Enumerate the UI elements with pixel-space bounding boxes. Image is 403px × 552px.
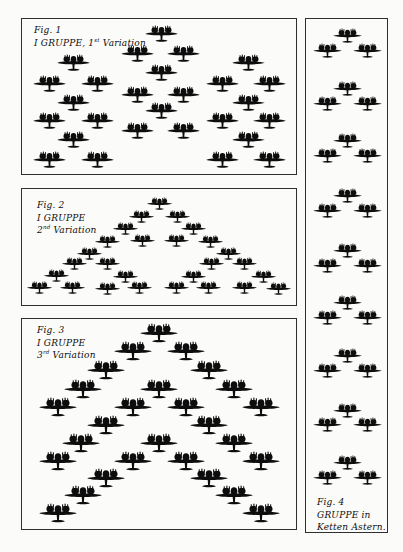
aircraft-icon: [333, 188, 362, 203]
aircraft-icon: [81, 151, 114, 168]
aircraft-icon: [62, 433, 100, 453]
aircraft-icon: [167, 86, 200, 103]
fig2-figure-subtitle: 2nd Variation: [37, 224, 97, 237]
aircraft-icon: [242, 451, 280, 471]
fig2-figure-label: Fig. 2: [37, 199, 97, 212]
aircraft-icon: [333, 28, 362, 43]
aircraft-icon: [60, 281, 85, 294]
aircraft-icon: [313, 203, 342, 218]
aircraft-icon: [190, 360, 228, 380]
aircraft-icon: [313, 363, 342, 378]
fig4-figure-subtitle: Ketten Astern.: [317, 521, 386, 534]
aircraft-icon: [145, 64, 178, 81]
aircraft-icon: [333, 133, 362, 148]
aircraft-icon: [242, 397, 280, 417]
aircraft-icon: [232, 131, 265, 148]
aircraft-icon: [33, 75, 66, 92]
aircraft-icon: [206, 75, 239, 92]
aircraft-icon: [145, 25, 178, 42]
caption-text: I GRUPPE: [37, 338, 85, 348]
caption-text: GRUPPE in: [317, 510, 371, 520]
aircraft-icon: [39, 451, 77, 471]
aircraft-icon: [206, 112, 239, 129]
aircraft-icon: [232, 54, 265, 71]
aircraft-icon: [81, 112, 114, 129]
aircraft-icon: [313, 310, 342, 325]
aircraft-icon: [206, 151, 239, 168]
aircraft-icon: [266, 282, 291, 295]
aircraft-icon: [353, 470, 382, 485]
aircraft-icon: [190, 415, 228, 435]
aircraft-icon: [353, 258, 382, 273]
aircraft-icon: [333, 403, 362, 418]
aircraft-icon: [333, 295, 362, 310]
aircraft-icon: [253, 75, 286, 92]
fig4-panel: Fig. 4 GRUPPE in Ketten Astern.: [305, 18, 388, 533]
aircraft-icon: [167, 45, 200, 62]
aircraft-icon: [87, 415, 125, 435]
aircraft-icon: [140, 433, 178, 453]
aircraft-icon: [353, 203, 382, 218]
aircraft-icon: [140, 323, 178, 343]
aircraft-icon: [253, 151, 286, 168]
aircraft-icon: [199, 257, 224, 270]
aircraft-icon: [121, 45, 154, 62]
fig3-panel: Fig. 3 I GRUPPE 3rd Variation: [21, 318, 297, 530]
aircraft-icon: [353, 417, 382, 432]
aircraft-icon: [232, 94, 265, 111]
caption-text: Variation: [50, 225, 96, 235]
aircraft-icon: [167, 341, 205, 361]
aircraft-icon: [313, 96, 342, 111]
aircraft-icon: [333, 348, 362, 363]
aircraft-icon: [33, 112, 66, 129]
aircraft-icon: [57, 94, 90, 111]
aircraft-icon: [121, 86, 154, 103]
aircraft-icon: [164, 281, 189, 294]
aircraft-icon: [353, 96, 382, 111]
aircraft-icon: [145, 102, 178, 119]
aircraft-icon: [95, 282, 120, 295]
aircraft-icon: [57, 131, 90, 148]
caption-text: Variation: [50, 350, 96, 360]
aircraft-icon: [164, 234, 189, 247]
aircraft-icon: [147, 197, 172, 210]
fig4-figure-label: Fig. 4: [317, 496, 386, 509]
fig2-panel: Fig. 2 I GRUPPE 2nd Variation: [21, 188, 297, 306]
aircraft-icon: [167, 397, 205, 417]
aircraft-icon: [242, 503, 280, 523]
aircraft-icon: [64, 485, 102, 505]
aircraft-icon: [114, 397, 152, 417]
aircraft-icon: [313, 470, 342, 485]
aircraft-icon: [215, 485, 253, 505]
aircraft-icon: [127, 281, 152, 294]
aircraft-icon: [313, 417, 342, 432]
aircraft-icon: [333, 243, 362, 258]
aircraft-icon: [232, 281, 257, 294]
aircraft-icon: [353, 363, 382, 378]
fig2-caption: Fig. 2 I GRUPPE 2nd Variation: [37, 199, 97, 237]
aircraft-icon: [313, 43, 342, 58]
book-page: Fig. 1 I GRUPPE, 1st Variation: [0, 0, 403, 552]
fig4-figure-title: GRUPPE in: [317, 509, 386, 522]
aircraft-icon: [121, 122, 154, 139]
aircraft-icon: [353, 43, 382, 58]
aircraft-icon: [95, 257, 120, 270]
caption-text: I GRUPPE, 1: [34, 38, 94, 48]
fig2-figure-title: I GRUPPE: [37, 212, 97, 225]
aircraft-icon: [130, 234, 155, 247]
aircraft-icon: [253, 112, 286, 129]
aircraft-icon: [27, 281, 52, 294]
aircraft-icon: [353, 310, 382, 325]
aircraft-icon: [333, 81, 362, 96]
aircraft-icon: [196, 281, 221, 294]
aircraft-icon: [353, 148, 382, 163]
fig3-figure-title: I GRUPPE: [37, 337, 96, 350]
caption-text: Ketten Astern.: [317, 522, 386, 532]
aircraft-icon: [39, 397, 77, 417]
aircraft-icon: [215, 433, 253, 453]
aircraft-icon: [87, 360, 125, 380]
fig4-caption: Fig. 4 GRUPPE in Ketten Astern.: [317, 496, 386, 534]
aircraft-icon: [64, 379, 102, 399]
aircraft-icon: [33, 151, 66, 168]
aircraft-icon: [81, 75, 114, 92]
